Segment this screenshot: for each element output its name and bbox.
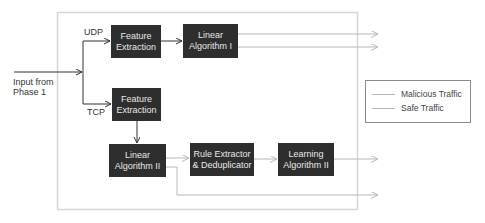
- linear-algorithm-2-node: Linear Algorithm II: [109, 144, 166, 177]
- legend-swatch-safe: [372, 108, 395, 109]
- legend: Malicious Traffic Safe Traffic: [365, 80, 471, 123]
- node-label-line: Linear: [198, 30, 223, 41]
- legend-swatch-malicious: [372, 94, 395, 95]
- feature-extraction-tcp-node: Feature Extraction: [112, 88, 161, 121]
- node-label-line: Feature: [120, 31, 151, 42]
- legend-item-safe: Safe Traffic: [372, 103, 444, 113]
- udp-label: UDP: [84, 27, 103, 38]
- node-label-line: Feature: [121, 94, 152, 105]
- legend-label-malicious: Malicious Traffic: [401, 89, 462, 99]
- linear-algorithm-1-node: Linear Algorithm I: [183, 24, 238, 58]
- node-label-line: Algorithm II: [115, 161, 161, 172]
- node-label-line: & Deduplicator: [192, 160, 251, 171]
- node-label-line: Extraction: [116, 42, 156, 53]
- legend-item-malicious: Malicious Traffic: [372, 89, 462, 99]
- node-label-line: Rule Extractor: [193, 149, 250, 160]
- rule-extractor-node: Rule Extractor & Deduplicator: [190, 143, 254, 176]
- input-label: Input from Phase 1: [13, 77, 54, 97]
- node-label-line: Linear: [125, 150, 150, 161]
- tcp-label: TCP: [87, 107, 105, 118]
- node-label-line: Extraction: [116, 105, 156, 116]
- input-label-line-2: Phase 1: [13, 87, 54, 97]
- learning-algorithm-2-node: Learning Algorithm II: [278, 143, 334, 176]
- node-label-line: Learning: [288, 149, 323, 160]
- node-label-line: Algorithm II: [283, 160, 329, 171]
- legend-label-safe: Safe Traffic: [401, 103, 444, 113]
- feature-extraction-udp-node: Feature Extraction: [111, 25, 161, 58]
- input-label-line-1: Input from: [13, 77, 54, 87]
- node-label-line: Algorithm I: [189, 41, 232, 52]
